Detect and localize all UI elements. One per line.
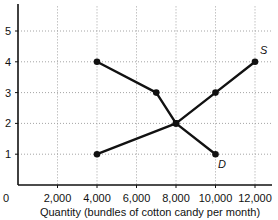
x-tick-label: 12,000: [238, 192, 272, 204]
y-tick-label: 4: [5, 56, 11, 68]
data-point: [212, 151, 219, 158]
x-tick-labels: 2,0004,0006,0008,00010,00012,000: [44, 192, 272, 204]
data-point: [94, 151, 101, 158]
gridlines: [15, 6, 272, 188]
demand-curve: [97, 62, 216, 154]
data-point: [153, 89, 160, 96]
x-axis-title: Quantity (bundles of cotton candy per mo…: [40, 206, 260, 218]
y-tick-label: 3: [5, 87, 11, 99]
y-tick-label: 1: [5, 148, 11, 160]
data-point: [212, 89, 219, 96]
y-tick-label: 2: [5, 117, 11, 129]
data-point: [252, 59, 259, 66]
supply-demand-chart: 12345 2,0004,0006,0008,00010,00012,000 0…: [0, 0, 278, 220]
x-tick-label: 10,000: [199, 192, 233, 204]
y-tick-labels: 12345: [5, 25, 11, 160]
y-tick-label: 5: [5, 25, 11, 37]
supply-curve-label: S: [260, 44, 268, 56]
data-point: [173, 120, 180, 127]
data-point: [94, 59, 101, 66]
x-tick-label: 4,000: [83, 192, 111, 204]
x-tick-label: 2,000: [44, 192, 72, 204]
x-tick-label: 6,000: [123, 192, 151, 204]
origin-label: 0: [3, 192, 9, 204]
demand-curve-label: D: [218, 158, 226, 170]
x-tick-label: 8,000: [162, 192, 190, 204]
